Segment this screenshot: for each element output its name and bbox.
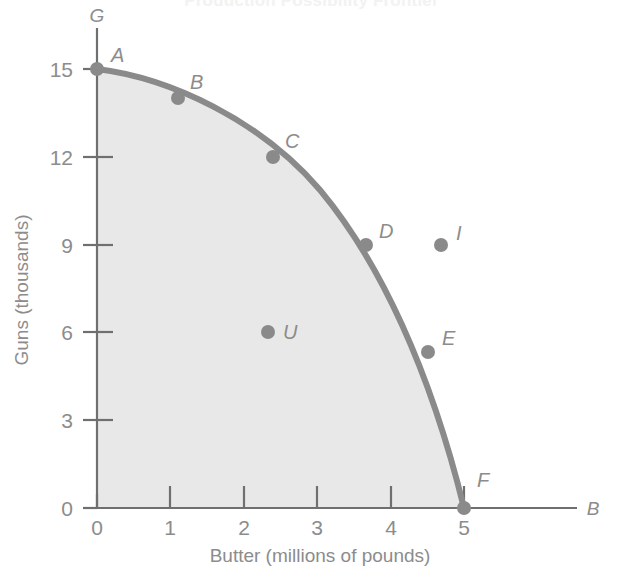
data-point-e	[421, 345, 435, 359]
y-axis-title: Guns (thousands)	[11, 214, 32, 365]
y-axis-ticks	[83, 69, 97, 508]
point-label-f: F	[477, 469, 491, 491]
x-axis-title: Butter (millions of pounds)	[210, 545, 431, 566]
y-tick-label: 9	[61, 234, 73, 257]
y-tick-label: 12	[50, 146, 73, 169]
feasible-region-shading	[97, 69, 464, 508]
x-tick-label: 3	[311, 516, 323, 539]
ppf-chart-svg: 15 12 9 6 3 0 0 1 2 3 4 5 G B	[0, 0, 623, 570]
data-point-a	[90, 62, 104, 76]
point-label-u: U	[283, 321, 298, 343]
y-tick-label: 15	[50, 58, 73, 81]
data-point-u	[261, 325, 275, 339]
x-tick-label: 4	[385, 516, 397, 539]
point-label-c: C	[285, 130, 300, 152]
data-point-c	[266, 150, 280, 164]
y-tick-label: 3	[61, 409, 73, 432]
x-tick-label: 2	[238, 516, 250, 539]
y-axis-tick-labels: 15 12 9 6 3 0	[50, 58, 73, 520]
x-tick-label: 0	[91, 516, 103, 539]
x-tick-label: 5	[458, 516, 470, 539]
data-point-d	[359, 238, 373, 252]
point-label-b: B	[190, 71, 203, 93]
point-label-d: D	[379, 220, 393, 242]
point-label-i: I	[456, 222, 462, 244]
y-axis-symbol-label: G	[90, 5, 105, 26]
chart-container: Production Possibility Frontier	[0, 0, 623, 570]
data-point-b	[171, 91, 185, 105]
data-point-f	[457, 501, 471, 515]
x-tick-label: 1	[164, 516, 176, 539]
point-label-a: A	[110, 44, 124, 66]
point-label-e: E	[442, 327, 456, 349]
data-point-i	[434, 238, 448, 252]
y-tick-label: 0	[61, 497, 73, 520]
x-axis-tick-labels: 0 1 2 3 4 5	[91, 516, 470, 539]
x-axis-symbol-label: B	[587, 498, 600, 519]
y-tick-label: 6	[61, 321, 73, 344]
